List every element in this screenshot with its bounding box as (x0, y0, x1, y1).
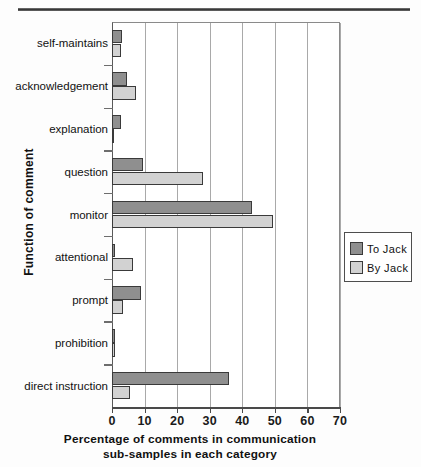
y-tick-0 (104, 65, 113, 66)
bar-question-by-jack (112, 172, 203, 186)
category-label-prompt: prompt (4, 294, 108, 306)
x-axis-title: Percentage of comments in communication … (20, 432, 360, 462)
x-tick-label-50: 50 (260, 414, 290, 428)
bar-direct-instruction-by-jack (112, 386, 130, 400)
bar-prohibition-to-jack (112, 329, 115, 343)
category-axis-labels: self-maintainsacknowledgementexplanation… (0, 0, 108, 467)
y-tick-5 (104, 279, 113, 280)
category-label-explanation: explanation (4, 123, 108, 135)
bar-monitor-by-jack (112, 215, 273, 229)
y-tick-1 (104, 108, 113, 109)
bar-explanation-to-jack (112, 115, 121, 129)
bar-direct-instruction-to-jack (112, 372, 229, 386)
legend-entry-to-jack: To Jack (350, 242, 406, 255)
x-tick-label-60: 60 (292, 414, 322, 428)
x-axis-title-line2: sub-samples in each category (20, 447, 360, 462)
x-tick-70 (340, 407, 341, 413)
bar-explanation-by-jack (112, 129, 114, 143)
gridline-60 (307, 23, 308, 407)
x-tick-0 (112, 407, 113, 413)
bar-acknowledgement-by-jack (112, 86, 136, 100)
legend-label-by-jack: By Jack (367, 262, 408, 274)
legend-swatch-by-jack (350, 261, 363, 274)
gridline-70 (340, 23, 341, 407)
legend-entry-by-jack: By Jack (350, 261, 406, 274)
x-axis-title-line1: Percentage of comments in communication (20, 432, 360, 447)
y-tick-3 (104, 193, 113, 194)
chart-page: self-maintainsacknowledgementexplanation… (0, 0, 421, 467)
category-label-attentional: attentional (4, 251, 108, 263)
bar-prohibition-by-jack (112, 343, 115, 357)
legend-swatch-to-jack (350, 242, 363, 255)
bar-acknowledgement-to-jack (112, 72, 127, 86)
x-tick-label-0: 0 (97, 414, 127, 428)
x-tick-50 (275, 407, 276, 413)
x-tick-20 (177, 407, 178, 413)
legend-box: To Jack By Jack (344, 232, 412, 282)
x-tick-60 (307, 407, 308, 413)
gridline-50 (275, 23, 276, 407)
legend-label-to-jack: To Jack (367, 243, 407, 255)
x-tick-40 (242, 407, 243, 413)
y-tick-2 (104, 150, 113, 151)
category-label-prohibition: prohibition (4, 337, 108, 349)
bar-self-maintains-by-jack (112, 44, 121, 58)
bar-prompt-to-jack (112, 286, 141, 300)
category-label-acknowledgement: acknowledgement (4, 80, 108, 92)
x-tick-label-10: 10 (130, 414, 160, 428)
bar-self-maintains-to-jack (112, 30, 122, 44)
bar-attentional-by-jack (112, 258, 133, 272)
category-label-direct-instruction: direct instruction (4, 380, 108, 392)
x-tick-10 (145, 407, 146, 413)
category-label-question: question (4, 166, 108, 178)
bar-prompt-by-jack (112, 300, 123, 314)
x-tick-30 (210, 407, 211, 413)
x-tick-label-70: 70 (325, 414, 355, 428)
y-tick-4 (104, 236, 113, 237)
x-tick-label-40: 40 (227, 414, 257, 428)
y-axis-title: Function of comment (22, 137, 36, 287)
bar-attentional-to-jack (112, 244, 115, 258)
category-label-monitor: monitor (4, 209, 108, 221)
y-tick-6 (104, 321, 113, 322)
y-tick-7 (104, 364, 113, 365)
bar-question-to-jack (112, 158, 143, 172)
x-tick-label-20: 20 (162, 414, 192, 428)
x-tick-label-30: 30 (195, 414, 225, 428)
bar-monitor-to-jack (112, 201, 252, 215)
category-label-self-maintains: self-maintains (4, 37, 108, 49)
